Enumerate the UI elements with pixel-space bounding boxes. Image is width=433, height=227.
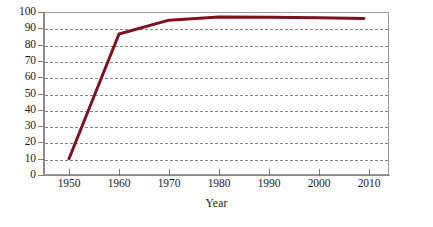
y-axis-tick-label: 70 xyxy=(6,55,36,67)
y-axis-tick-mark xyxy=(38,175,44,176)
gridline-horizontal xyxy=(45,127,388,128)
y-axis-tick-label: 30 xyxy=(6,120,36,132)
y-axis-tick-mark xyxy=(38,77,44,78)
x-axis-tick-mark xyxy=(69,169,70,176)
y-axis-tick-label: 10 xyxy=(6,153,36,165)
gridline-horizontal xyxy=(45,46,388,47)
y-axis-tick-mark xyxy=(38,159,44,160)
x-axis-tick-mark xyxy=(319,169,320,176)
y-axis-tick-mark xyxy=(38,12,44,13)
gridline-horizontal xyxy=(45,62,388,63)
x-axis-tick-mark xyxy=(269,169,270,176)
gridline-horizontal xyxy=(45,95,388,96)
y-axis-tick-label: 50 xyxy=(6,88,36,100)
x-axis-tick-label: 1990 xyxy=(246,178,292,190)
y-axis-tick-label: 0 xyxy=(6,169,36,181)
y-axis-tick-label: 60 xyxy=(6,71,36,83)
y-axis-tick-label: 90 xyxy=(6,22,36,34)
x-axis-line xyxy=(43,175,390,176)
x-axis-tick-mark xyxy=(119,169,120,176)
x-axis-title: Year xyxy=(0,197,433,209)
y-axis-tick-labels: 0102030405060708090100 xyxy=(2,0,36,227)
y-axis-tick-mark xyxy=(38,126,44,127)
x-axis-tick-label: 1960 xyxy=(96,178,142,190)
y-axis-tick-label: 20 xyxy=(6,136,36,148)
x-axis-tick-label: 1970 xyxy=(146,178,192,190)
x-axis-tick-mark xyxy=(169,169,170,176)
x-axis-tick-label: 2000 xyxy=(296,178,342,190)
chart-figure: 0102030405060708090100 19501960197019801… xyxy=(0,0,433,227)
x-axis-tick-label: 2010 xyxy=(346,178,392,190)
y-axis-tick-mark xyxy=(38,61,44,62)
x-axis-tick-mark xyxy=(369,169,370,176)
x-axis-tick-label: 1980 xyxy=(196,178,242,190)
y-axis-tick-label: 40 xyxy=(6,104,36,116)
y-axis-tick-label: 80 xyxy=(6,39,36,51)
y-axis-tick-mark xyxy=(38,28,44,29)
y-axis-tick-mark xyxy=(38,142,44,143)
x-axis-tick-label: 1950 xyxy=(46,178,92,190)
gridline-horizontal xyxy=(45,111,388,112)
gridline-horizontal xyxy=(45,143,388,144)
y-axis-tick-mark xyxy=(38,45,44,46)
y-axis-tick-label: 100 xyxy=(6,6,36,18)
y-axis-tick-mark xyxy=(38,94,44,95)
gridline-horizontal xyxy=(45,160,388,161)
plot-area xyxy=(44,12,389,175)
x-axis-tick-mark xyxy=(219,169,220,176)
y-axis-tick-mark xyxy=(38,110,44,111)
gridline-horizontal xyxy=(45,29,388,30)
gridline-horizontal xyxy=(45,78,388,79)
